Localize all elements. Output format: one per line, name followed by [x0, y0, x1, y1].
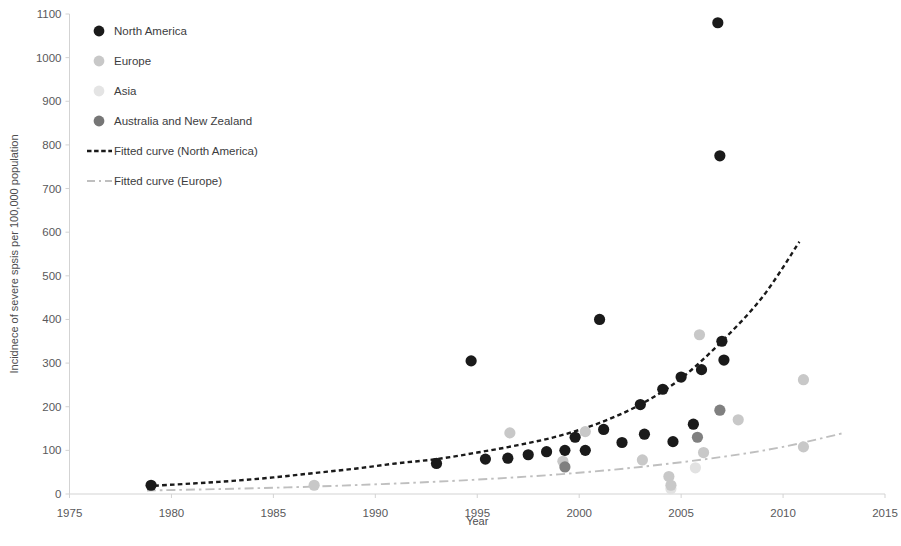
y-axis-title: Incidnece of severe spsis per 100,000 po… [8, 134, 20, 373]
legend-label: North America [114, 25, 187, 37]
y-tick-label: 200 [42, 401, 61, 413]
fitted-curve-europe [147, 433, 844, 491]
data-point [688, 419, 699, 430]
data-point [637, 454, 648, 465]
y-tick-labels: 010020030040050060070080090010001100 [36, 8, 70, 500]
data-point [559, 461, 570, 472]
series-north-america [145, 17, 729, 491]
data-point [570, 432, 581, 443]
data-point [480, 453, 491, 464]
x-tick-label: 2005 [668, 507, 694, 519]
x-tick-label: 1980 [159, 507, 185, 519]
data-point [667, 436, 678, 447]
x-axis-title: Year [466, 515, 489, 527]
data-point [798, 374, 809, 385]
y-tick-label: 500 [42, 270, 61, 282]
legend-entry-fitted-curve-north-america: Fitted curve (North America) [87, 145, 258, 157]
legend-marker-circle [94, 56, 105, 67]
axes-group [70, 14, 886, 494]
data-point [580, 445, 591, 456]
data-point [523, 449, 534, 460]
data-point [718, 354, 729, 365]
data-point [616, 437, 627, 448]
legend-label: Fitted curve (Europe) [114, 175, 222, 187]
data-point [714, 150, 725, 161]
data-point [657, 384, 668, 395]
y-tick-label: 300 [42, 357, 61, 369]
data-point [502, 453, 513, 464]
data-point [694, 329, 705, 340]
axis-titles: YearIncidnece of severe spsis per 100,00… [8, 134, 489, 527]
data-points-group [145, 17, 809, 494]
data-point [466, 355, 477, 366]
y-tick-label: 700 [42, 183, 61, 195]
legend-marker-circle [94, 116, 105, 127]
data-point [504, 427, 515, 438]
data-point [798, 441, 809, 452]
y-tick-label: 1000 [36, 52, 62, 64]
y-tick-label: 0 [55, 488, 61, 500]
x-tick-label: 1985 [261, 507, 287, 519]
scatter-plot: 010020030040050060070080090010001100 197… [0, 0, 901, 546]
data-point [145, 480, 156, 491]
data-point [692, 432, 703, 443]
data-point [635, 399, 646, 410]
legend-entry-north-america: North America [94, 25, 188, 37]
data-point [431, 458, 442, 469]
legend-entry-australia-and-new-zealand: Australia and New Zealand [94, 115, 252, 127]
data-point [639, 429, 650, 440]
legend-entry-asia: Asia [94, 85, 137, 97]
data-point [690, 462, 701, 473]
x-tick-label: 2010 [770, 507, 796, 519]
y-tick-label: 800 [42, 139, 61, 151]
legend: North AmericaEuropeAsiaAustralia and New… [87, 25, 258, 187]
legend-marker-circle [94, 86, 105, 97]
data-point [580, 426, 591, 437]
legend-label: Fitted curve (North America) [114, 145, 258, 157]
y-tick-label: 900 [42, 95, 61, 107]
data-point [696, 364, 707, 375]
legend-entry-fitted-curve-europe: Fitted curve (Europe) [87, 175, 222, 187]
series-europe [309, 329, 810, 491]
data-point [714, 405, 725, 416]
data-point [698, 447, 709, 458]
y-tick-label: 400 [42, 313, 61, 325]
y-tick-label: 100 [42, 444, 61, 456]
data-point [665, 480, 676, 491]
data-point [598, 424, 609, 435]
data-point [733, 414, 744, 425]
x-tick-label: 1975 [57, 507, 83, 519]
y-tick-label: 1100 [37, 8, 62, 20]
x-tick-label: 2000 [566, 507, 592, 519]
legend-entry-europe: Europe [94, 55, 151, 67]
x-tick-label: 2015 [872, 507, 898, 519]
data-point [559, 445, 570, 456]
fitted-curves-group [147, 242, 844, 491]
legend-marker-circle [94, 26, 105, 37]
data-point [716, 336, 727, 347]
legend-label: Asia [114, 85, 137, 97]
x-tick-label: 1990 [363, 507, 389, 519]
data-point [676, 371, 687, 382]
chart-container: 010020030040050060070080090010001100 197… [0, 0, 901, 546]
data-point [594, 314, 605, 325]
y-tick-label: 600 [42, 226, 61, 238]
data-point [309, 480, 320, 491]
data-point [541, 446, 552, 457]
data-point [712, 17, 723, 28]
legend-label: Europe [114, 55, 151, 67]
legend-label: Australia and New Zealand [114, 115, 252, 127]
